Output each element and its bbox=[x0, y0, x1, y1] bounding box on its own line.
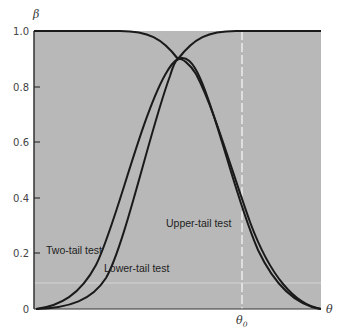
y-tick-label: 0.4 bbox=[13, 193, 29, 204]
theta0-label: θ0 bbox=[236, 314, 248, 329]
power-curve-chart: 1.0 0.8 0.6 0.4 0.2 0 β θ θ0 Two-tail te… bbox=[0, 0, 345, 332]
y-tick-label: 1.0 bbox=[13, 26, 29, 37]
two-tail-label: Two-tail test bbox=[46, 244, 102, 256]
plot-area bbox=[34, 31, 321, 309]
y-tick-label: 0 bbox=[23, 304, 29, 315]
lower-tail-label: Lower-tail test bbox=[104, 262, 169, 274]
upper-tail-label: Upper-tail test bbox=[166, 217, 231, 229]
y-axis-label: β bbox=[32, 8, 39, 21]
x-axis-label: θ bbox=[326, 303, 333, 316]
y-tick-label: 0.8 bbox=[13, 82, 29, 93]
y-tick-label: 0.2 bbox=[13, 248, 29, 259]
y-tick-label: 0.6 bbox=[13, 137, 29, 148]
